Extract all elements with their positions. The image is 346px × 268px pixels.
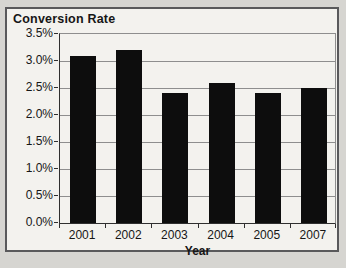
- x-tick-label: 2003: [151, 229, 197, 242]
- y-axis-tick: [54, 222, 58, 223]
- x-axis-tick: [151, 224, 152, 228]
- x-tick-label: 2005: [244, 229, 290, 242]
- y-tick-label: 0.5%: [7, 189, 53, 202]
- y-axis-tick: [54, 60, 58, 61]
- x-tick-label: 2004: [198, 229, 244, 242]
- y-axis-tick: [54, 141, 58, 142]
- x-axis-tick: [105, 224, 106, 228]
- x-axis-tick: [290, 224, 291, 228]
- gridline: [60, 88, 335, 89]
- gridline: [60, 142, 335, 143]
- y-axis-tick: [54, 114, 58, 115]
- x-axis-tick: [244, 224, 245, 228]
- gridline: [60, 115, 335, 116]
- gridline: [60, 196, 335, 197]
- plot-area: [59, 33, 336, 224]
- bar-2002: [116, 50, 142, 223]
- y-tick-label: 1.0%: [7, 162, 53, 175]
- y-axis-tick: [54, 168, 58, 169]
- page-background: Conversion Rate 0.0%0.5%1.0%1.5%2.0%2.5%…: [0, 0, 346, 268]
- y-tick-label: 2.5%: [7, 81, 53, 94]
- x-tick-label: 2007: [290, 229, 336, 242]
- x-axis-tick: [335, 224, 336, 228]
- y-axis-tick: [54, 195, 58, 196]
- x-axis-tick: [59, 224, 60, 228]
- y-axis-tick: [54, 87, 58, 88]
- x-axis-tick: [198, 224, 199, 228]
- chart-title: Conversion Rate: [13, 12, 115, 26]
- y-tick-label: 1.5%: [7, 135, 53, 148]
- bar-2004: [209, 83, 235, 223]
- y-tick-label: 2.0%: [7, 108, 53, 121]
- y-tick-label: 3.0%: [7, 54, 53, 67]
- bar-2005: [255, 93, 281, 223]
- x-tick-label: 2001: [59, 229, 105, 242]
- y-tick-label: 3.5%: [7, 27, 53, 40]
- x-axis-title: Year: [59, 244, 336, 258]
- x-tick-label: 2002: [105, 229, 151, 242]
- bar-2003: [162, 93, 188, 223]
- bar-2007: [301, 88, 327, 223]
- y-axis-tick: [54, 33, 58, 34]
- conversion-rate-chart: Conversion Rate 0.0%0.5%1.0%1.5%2.0%2.5%…: [5, 7, 339, 252]
- y-tick-label: 0.0%: [7, 216, 53, 229]
- gridline: [60, 169, 335, 170]
- gridline: [60, 61, 335, 62]
- bar-2001: [70, 56, 96, 223]
